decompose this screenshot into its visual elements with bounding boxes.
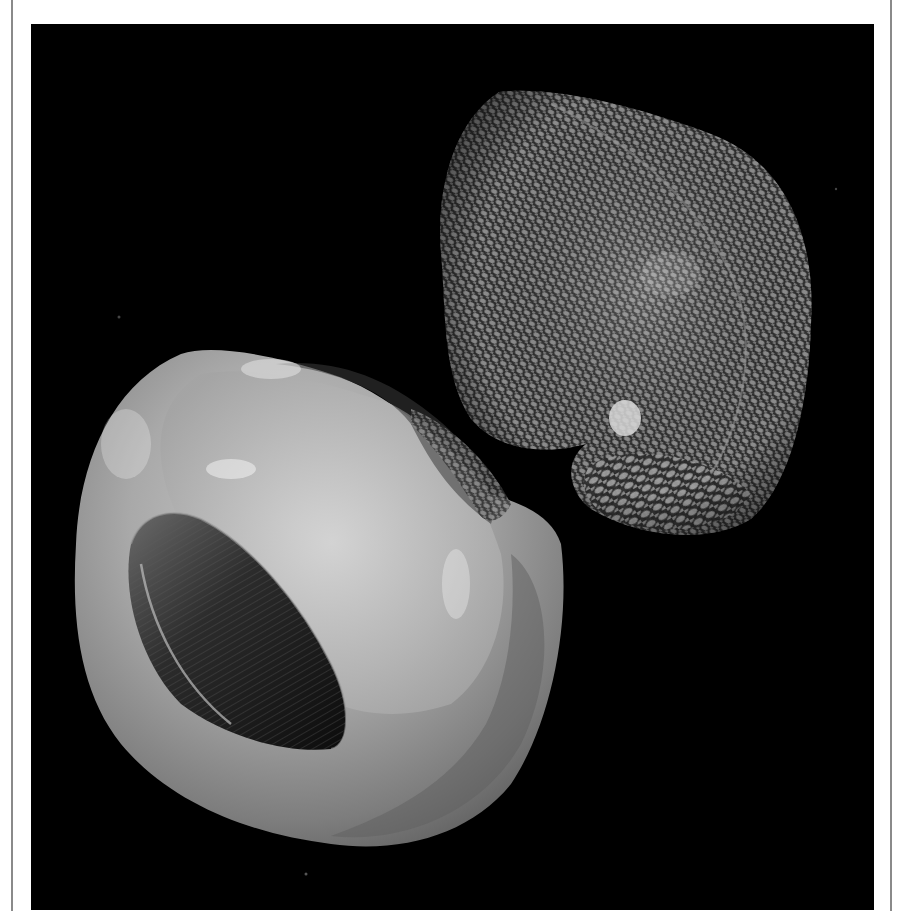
shell-photograph: Grayscale photograph of two shells: left…: [31, 24, 874, 910]
right-shell: [440, 91, 812, 535]
frame-line-left: [11, 0, 13, 911]
frame-line-right: [890, 0, 892, 911]
